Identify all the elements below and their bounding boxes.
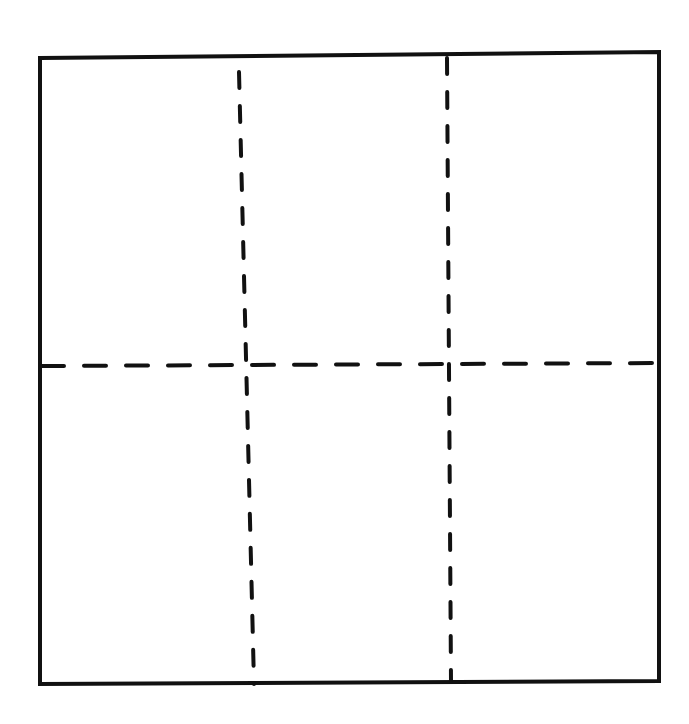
grid-diagram: [0, 0, 689, 724]
background: [0, 0, 689, 724]
